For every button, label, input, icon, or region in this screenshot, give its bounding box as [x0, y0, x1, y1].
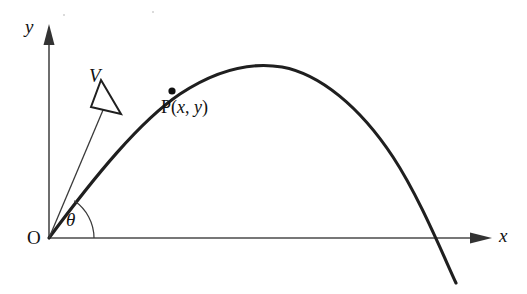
launch-angle-label: θ	[66, 210, 75, 229]
velocity-vector-label: V	[89, 66, 101, 85]
point-p-var-x: x	[177, 97, 185, 117]
x-axis-label: x	[499, 226, 507, 245]
y-axis	[44, 24, 55, 238]
projectile-motion-figure: y x O V θ P(x, y)	[0, 0, 527, 294]
figure-canvas	[0, 0, 527, 294]
point-p-suffix: )	[202, 97, 208, 117]
point-p-separator: ,	[185, 97, 194, 117]
velocity-vector-shaft	[49, 103, 106, 238]
point-p-marker	[168, 87, 175, 94]
point-p-var-y: y	[194, 97, 202, 117]
y-axis-label: y	[25, 17, 33, 36]
point-p-prefix: P(	[161, 97, 177, 117]
point-p-label: P(x, y)	[161, 98, 208, 116]
x-axis-arrowhead-icon	[470, 233, 492, 244]
y-axis-arrowhead-icon	[44, 24, 55, 45]
launch-angle-arc	[74, 201, 94, 238]
origin-label: O	[27, 228, 41, 247]
x-axis	[49, 233, 492, 244]
